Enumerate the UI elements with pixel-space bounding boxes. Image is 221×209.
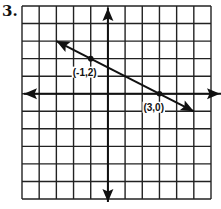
axes — [24, 8, 221, 202]
point-label: (3,0) — [143, 102, 164, 113]
grid — [22, 6, 211, 199]
coordinate-graph: (-1,2)(3,0) — [0, 0, 221, 209]
point-dot — [88, 56, 94, 62]
points: (-1,2)(3,0) — [72, 56, 165, 113]
point-dot — [157, 91, 163, 97]
point-label: (-1,2) — [73, 67, 97, 78]
